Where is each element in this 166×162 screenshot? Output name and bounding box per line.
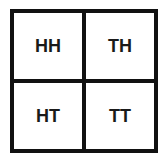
cell-hh: HH [14,13,84,81]
cell-ht: HT [14,81,84,149]
cell-tt: TT [84,81,154,149]
outcome-grid: HH TH HT TT [10,9,158,153]
cell-th: TH [84,13,154,81]
